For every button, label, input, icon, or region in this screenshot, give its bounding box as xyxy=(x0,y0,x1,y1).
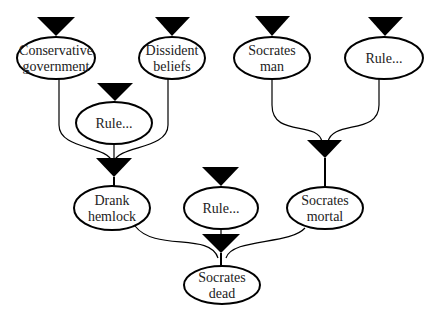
node-rule1: Rule... xyxy=(76,102,152,144)
node-label: Socrates xyxy=(248,43,295,58)
node-socrates-man: Socratesman xyxy=(234,37,310,79)
merge-triangle-icon xyxy=(202,234,240,253)
input-triangle-icon xyxy=(97,83,133,101)
node-label: Dissident xyxy=(146,43,199,58)
input-triangle-icon xyxy=(255,16,290,36)
node-label: Drank xyxy=(95,193,130,208)
merge-triangle-icon xyxy=(307,140,342,158)
merge-triangle-icon xyxy=(96,158,132,177)
node-label: Socrates xyxy=(198,270,245,285)
node-drank: Drankhemlock xyxy=(74,186,150,230)
node-label: hemlock xyxy=(88,209,136,224)
input-triangle-icon xyxy=(155,17,190,36)
edge-rule2-mortal xyxy=(328,79,379,142)
node-label: Rule... xyxy=(366,51,403,66)
node-socrates-dead: Socratesdead xyxy=(184,266,260,304)
input-triangle-icon xyxy=(37,17,75,36)
node-label: Rule... xyxy=(96,116,133,131)
node-label: Socrates xyxy=(301,193,348,208)
node-rule2: Rule... xyxy=(345,37,423,79)
node-rule3: Rule... xyxy=(184,187,258,229)
node-conservative: Conservativegovernment xyxy=(17,37,95,79)
edge-mortal-dead xyxy=(226,228,305,258)
node-dissident: Dissidentbeliefs xyxy=(139,37,205,79)
edge-man-mortal xyxy=(272,79,322,142)
input-triangle-icon xyxy=(368,17,403,36)
edge-drank-dead xyxy=(135,226,218,258)
node-label: beliefs xyxy=(153,59,190,74)
node-label: man xyxy=(260,59,284,74)
node-label: dead xyxy=(209,286,235,301)
node-socrates-mortal: Socratesmortal xyxy=(287,187,363,229)
node-label: mortal xyxy=(307,209,344,224)
inference-diagram: ConservativegovernmentDissidentbeliefsRu… xyxy=(0,0,436,323)
input-triangle-icon xyxy=(202,167,239,186)
node-label: government xyxy=(23,59,90,74)
node-label: Rule... xyxy=(203,201,240,216)
node-label: Conservative xyxy=(19,43,93,58)
